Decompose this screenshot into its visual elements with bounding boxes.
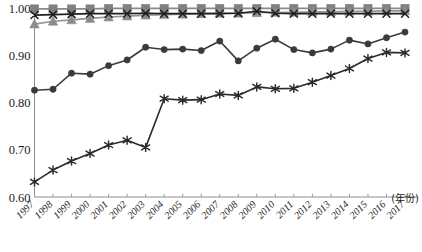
x-axis-unit-label-group: (年份)	[391, 192, 419, 204]
y-axis-tick-label: 0.80	[9, 96, 31, 110]
data-point-marker-circle	[180, 46, 186, 52]
data-point-marker-circle	[402, 29, 408, 35]
x-axis-tick-marks	[35, 194, 406, 197]
y-axis-tick-label: 0.90	[9, 49, 31, 63]
data-point-marker-circle	[365, 41, 371, 47]
data-point-marker-circle	[161, 46, 167, 52]
data-point-marker-circle	[143, 44, 149, 50]
data-point-marker-circle	[68, 70, 74, 76]
data-point-marker-circle	[124, 57, 130, 63]
data-point-marker-circle	[198, 47, 204, 53]
data-point-marker-circle	[272, 36, 278, 42]
data-point-marker-circle	[291, 46, 297, 52]
data-point-marker-circle	[217, 38, 223, 44]
data-point-marker-circle	[87, 71, 93, 77]
data-point-marker-circle	[383, 35, 389, 41]
data-point-marker-circle	[346, 37, 352, 43]
data-point-marker-circle	[50, 86, 56, 92]
y-axis-tick-label: 1.00	[9, 2, 31, 16]
data-point-marker-circle	[328, 46, 334, 52]
y-axis-tick-label: 0.70	[9, 143, 31, 157]
line-chart: 1.000.900.800.700.60 1997199819992000200…	[0, 0, 422, 252]
x-axis-unit-label: (年份)	[391, 192, 419, 204]
data-point-marker-circle	[309, 50, 315, 56]
data-point-marker-circle	[254, 45, 260, 51]
chart-container: 1.000.900.800.700.60 1997199819992000200…	[0, 0, 422, 252]
data-point-marker-circle	[235, 58, 241, 64]
data-point-marker-circle	[31, 87, 37, 93]
data-point-marker-circle	[105, 62, 111, 68]
